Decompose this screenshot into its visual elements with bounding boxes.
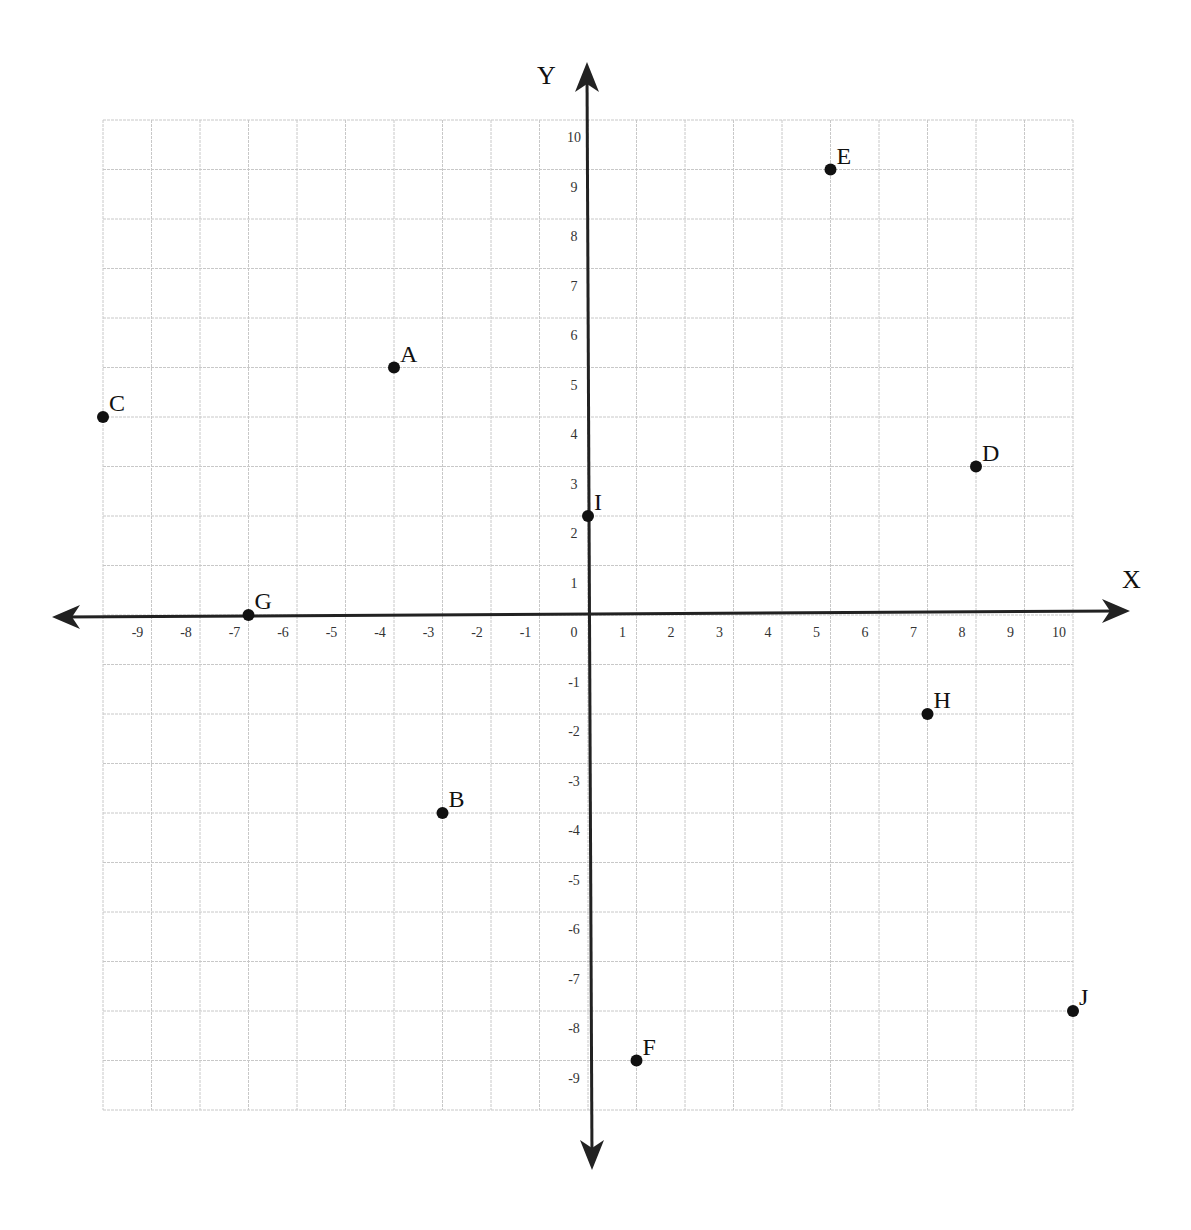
y-tick-label: -4: [568, 823, 580, 838]
y-tick-label: 8: [571, 229, 578, 244]
x-tick-label: 0: [571, 625, 578, 640]
x-tick-label: 8: [959, 625, 966, 640]
x-tick-label: -7: [229, 625, 241, 640]
x-tick-label: -3: [423, 625, 435, 640]
y-tick-label: 10: [567, 130, 581, 145]
point-marker-icon: [631, 1055, 643, 1067]
point-marker-icon: [825, 164, 837, 176]
point-label: J: [1079, 984, 1088, 1010]
x-tick-label: 7: [910, 625, 917, 640]
point-label: C: [109, 390, 125, 416]
y-tick-label: 5: [571, 378, 578, 393]
y-tick-label: -2: [568, 724, 580, 739]
point-marker-icon: [437, 807, 449, 819]
x-tick-label: 5: [813, 625, 820, 640]
y-tick-label: 9: [571, 180, 578, 195]
y-tick-label: -5: [568, 873, 580, 888]
point-marker-icon: [922, 708, 934, 720]
x-tick-label: 3: [716, 625, 723, 640]
point-marker-icon: [243, 609, 255, 621]
x-tick-label: -8: [180, 625, 192, 640]
x-tick-label: 1: [619, 625, 626, 640]
point-e: E: [825, 143, 852, 176]
y-tick-label: 4: [571, 427, 578, 442]
y-tick-label: 7: [571, 279, 578, 294]
y-tick-label: 3: [571, 477, 578, 492]
x-tick-label: -2: [471, 625, 483, 640]
point-label: D: [982, 440, 999, 466]
point-marker-icon: [1067, 1005, 1079, 1017]
point-label: F: [643, 1034, 656, 1060]
x-axis-title: X: [1122, 565, 1141, 594]
x-tick-label: -1: [520, 625, 532, 640]
y-tick-label: 6: [571, 328, 578, 343]
x-tick-label: -5: [326, 625, 338, 640]
point-label: E: [837, 143, 852, 169]
x-tick-label: -6: [277, 625, 289, 640]
x-tick-label: 6: [862, 625, 869, 640]
point-marker-icon: [970, 461, 982, 473]
y-axis-title: Y: [537, 61, 556, 90]
point-label: I: [594, 489, 602, 515]
point-marker-icon: [97, 411, 109, 423]
x-tick-label: -9: [132, 625, 144, 640]
y-tick-label: -1: [568, 675, 580, 690]
x-tick-label: 4: [765, 625, 772, 640]
point-label: B: [449, 786, 465, 812]
y-tick-label: 1: [571, 576, 578, 591]
y-tick-label: -3: [568, 774, 580, 789]
x-tick-label: 10: [1052, 625, 1066, 640]
y-tick-label: -7: [568, 972, 580, 987]
x-tick-label: -4: [374, 625, 386, 640]
point-label: H: [934, 687, 951, 713]
point-marker-icon: [388, 362, 400, 374]
point-label: A: [400, 341, 418, 367]
point-i: I: [582, 489, 602, 522]
coordinate-plane: X Y -9-8-7-6-5-4-3-2-1012345678910109876…: [0, 0, 1191, 1230]
point-a: A: [388, 341, 418, 374]
point-marker-icon: [582, 510, 594, 522]
y-tick-label: 2: [571, 526, 578, 541]
point-label: G: [255, 588, 272, 614]
x-tick-label: 9: [1007, 625, 1014, 640]
x-tick-label: 2: [668, 625, 675, 640]
point-j: J: [1067, 984, 1088, 1017]
y-tick-label: -9: [568, 1071, 580, 1086]
y-tick-label: -6: [568, 922, 580, 937]
data-points: ABCDEFGHIJ: [97, 143, 1088, 1067]
point-h: H: [922, 687, 951, 720]
y-tick-label: -8: [568, 1021, 580, 1036]
point-f: F: [631, 1034, 656, 1067]
point-b: B: [437, 786, 465, 819]
point-d: D: [970, 440, 999, 473]
point-c: C: [97, 390, 125, 423]
